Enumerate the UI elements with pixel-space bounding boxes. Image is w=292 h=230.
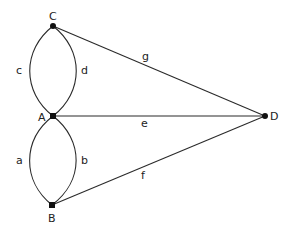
- vertex-a: [50, 113, 56, 119]
- vertex-c: [50, 23, 56, 29]
- vertex-b: [49, 202, 55, 208]
- edge-b: [52, 116, 76, 205]
- edge-label-g: g: [142, 50, 149, 63]
- edge-c: [30, 26, 53, 116]
- edge-label-d: d: [81, 64, 88, 77]
- graph-svg: C A B D a b c d e f g: [0, 0, 292, 230]
- edge-d: [53, 26, 76, 116]
- edge-label-f: f: [141, 169, 146, 182]
- edge-label-a: a: [16, 154, 23, 167]
- vertex-label-b: B: [48, 212, 56, 225]
- edge-a: [30, 116, 53, 205]
- edge-label-e: e: [141, 117, 148, 130]
- graph-diagram: C A B D a b c d e f g: [0, 0, 292, 230]
- vertex-label-c: C: [49, 10, 57, 23]
- edge-label-c: c: [16, 64, 22, 77]
- vertex-label-d: D: [270, 110, 278, 123]
- edge-label-b: b: [81, 154, 88, 167]
- vertex-label-a: A: [38, 111, 46, 124]
- vertex-d: [262, 113, 268, 119]
